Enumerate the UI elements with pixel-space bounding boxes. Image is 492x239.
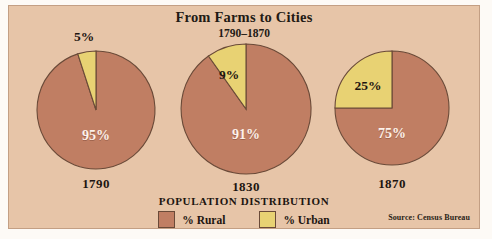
pie-year-1790: 1790 <box>36 176 156 192</box>
legend-swatch-rural <box>158 211 175 228</box>
legend: POPULATION DISTRIBUTION % Rural % Urban <box>8 194 480 228</box>
legend-label-rural: % Rural <box>182 214 225 226</box>
page-title: From Farms to Cities <box>8 9 480 26</box>
legend-label-urban: % Urban <box>283 214 329 226</box>
legend-item-rural[interactable]: % Rural <box>158 211 225 228</box>
legend-item-urban[interactable]: % Urban <box>259 211 329 228</box>
title-block: From Farms to Cities 1790–1870 <box>8 9 480 40</box>
chart-panel: From Farms to Cities 1790–1870 95% 5% 17… <box>8 5 480 229</box>
chart-figure: From Farms to Cities 1790–1870 95% 5% 17… <box>0 0 492 239</box>
legend-swatch-urban <box>259 211 276 228</box>
pie-year-1870: 1870 <box>334 176 450 192</box>
pie-chart-1790[interactable]: 95% 5% 1790 <box>36 50 156 190</box>
pie-chart-1830[interactable]: 91% 9% 1830 <box>180 43 312 191</box>
pie-svg-1830 <box>180 43 312 175</box>
source-note: Source: Census Bureau <box>388 213 470 222</box>
pie-chart-1870[interactable]: 75% 25% 1870 <box>334 50 450 190</box>
pie-year-1830: 1830 <box>180 179 312 195</box>
pie-svg-1870 <box>334 50 450 166</box>
chart-subtitle: 1790–1870 <box>8 26 480 40</box>
pie-slice-urban-1870 <box>335 51 392 108</box>
legend-title: POPULATION DISTRIBUTION <box>8 194 480 208</box>
pie-svg-1790 <box>36 50 156 170</box>
